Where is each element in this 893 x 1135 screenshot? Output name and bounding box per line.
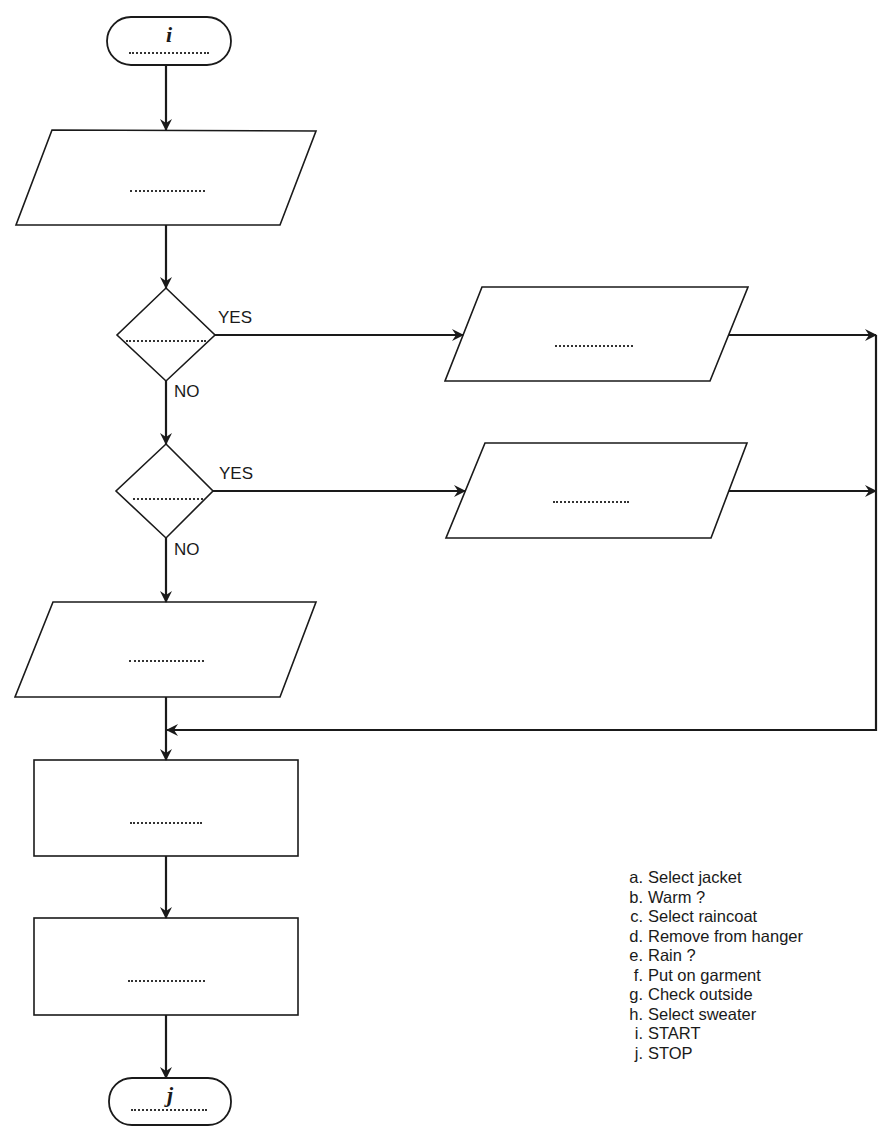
legend-key: j. [622,1044,648,1064]
legend-text: Check outside [648,985,753,1005]
stop-blank [131,1109,207,1111]
stop-terminal-label: j [109,1082,231,1108]
legend-item: e.Rain ? [622,946,803,966]
legend-text: STOP [648,1044,693,1064]
process-box-1 [34,760,298,856]
blank-decision-2 [133,498,203,500]
legend-text: Select raincoat [648,907,757,927]
legend-item: h.Select sweater [622,1005,803,1025]
return-bus-line [167,335,876,730]
decision-1-yes-label: YES [218,309,252,327]
legend-text: Select sweater [648,1005,756,1025]
input-shape-yes-2 [446,443,747,538]
legend-item: d.Remove from hanger [622,927,803,947]
blank-yes-2 [553,501,629,503]
blank-box-1 [130,822,202,824]
legend-key: b. [622,888,648,908]
legend-key: i. [622,1024,648,1044]
process-box-2 [34,918,298,1015]
legend-key: h. [622,1005,648,1025]
legend-text: Put on garment [648,966,761,986]
legend-text: Remove from hanger [648,927,803,947]
legend-key: e. [622,946,648,966]
legend-item: b.Warm ? [622,888,803,908]
decision-1-no-label: NO [174,383,200,401]
legend-item: g.Check outside [622,985,803,1005]
decision-diamond-1 [117,288,215,381]
input-shape-yes-1 [445,287,748,381]
decision-2-no-label: NO [174,541,200,559]
blank-check-outside [130,190,205,192]
start-terminal-label: i [107,22,231,48]
legend-text: Rain ? [648,946,696,966]
blank-decision-1 [126,340,206,342]
legend-item: f.Put on garment [622,966,803,986]
legend-item: c.Select raincoat [622,907,803,927]
legend-item: a.Select jacket [622,868,803,888]
start-blank [129,52,209,54]
decision-diamond-2 [116,444,213,538]
legend-text: START [648,1024,701,1044]
legend-text: Select jacket [648,868,742,888]
input-shape-1 [16,130,316,225]
answer-legend: a.Select jacket b.Warm ? c.Select rainco… [622,868,803,1063]
legend-key: g. [622,985,648,1005]
blank-yes-1 [555,345,633,347]
legend-item: i.START [622,1024,803,1044]
decision-2-yes-label: YES [219,465,253,483]
blank-box-2 [128,980,205,982]
legend-key: c. [622,907,648,927]
legend-key: d. [622,927,648,947]
input-shape-no [15,602,316,697]
legend-key: a. [622,868,648,888]
blank-no-path [129,660,204,662]
legend-item: j.STOP [622,1044,803,1064]
legend-text: Warm ? [648,888,705,908]
legend-key: f. [622,966,648,986]
